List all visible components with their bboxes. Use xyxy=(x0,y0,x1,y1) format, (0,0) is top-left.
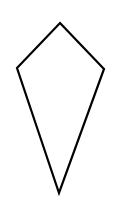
kite-diagram xyxy=(0,0,122,213)
diagram-canvas xyxy=(0,0,122,213)
kite-shape xyxy=(17,23,104,193)
